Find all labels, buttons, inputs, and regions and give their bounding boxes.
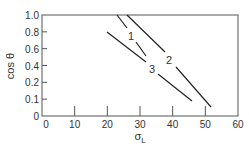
series-line-1 (117, 15, 127, 28)
x-tick-label: 40 (167, 119, 179, 130)
x-tick-label: 30 (134, 119, 146, 130)
y-tick-label: 0.6 (25, 44, 39, 55)
x-tick-label: 50 (200, 119, 212, 130)
y-tick-label: 0.4 (25, 61, 39, 72)
x-axis-label-sub: L (141, 136, 146, 145)
y-tick-label: 0 (33, 111, 39, 122)
series-line-1 (136, 42, 146, 56)
series-line-3 (158, 74, 192, 101)
y-axis-label: cos θ (4, 53, 16, 79)
x-tick-label: 10 (69, 119, 81, 130)
x-axis-ticks: 0102030405060 (43, 106, 244, 130)
x-tick-label: 20 (102, 119, 114, 130)
series-label-3: 3 (149, 63, 155, 75)
y-tick-label: 0.8 (25, 27, 39, 38)
series-line-2 (176, 67, 211, 107)
y-tick-label: 0.1 (25, 94, 39, 105)
x-tick-label: 60 (232, 119, 244, 130)
y-tick-label: 0.2 (25, 77, 39, 88)
plot-border (42, 15, 238, 116)
series-label-1: 1 (128, 30, 134, 42)
series-lines (107, 15, 211, 107)
chart: 00.10.20.40.60.81.0 0102030405060 123 co… (0, 0, 249, 146)
x-tick-label: 0 (43, 119, 49, 130)
series-label-2: 2 (166, 54, 172, 66)
y-tick-label: 1.0 (25, 10, 39, 21)
x-axis-label: σL (134, 130, 146, 145)
plot-frame (42, 15, 238, 116)
chart-svg: 00.10.20.40.60.81.0 0102030405060 123 co… (0, 0, 249, 146)
y-axis-ticks: 00.10.20.40.60.81.0 (25, 10, 47, 122)
